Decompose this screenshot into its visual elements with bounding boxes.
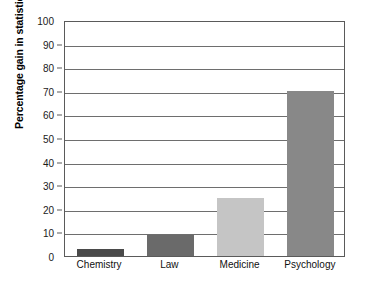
y-axis-tick-mark: [57, 91, 62, 92]
y-axis-tick-mark: [57, 233, 62, 234]
bar: [147, 235, 194, 256]
bar: [287, 91, 334, 256]
y-axis-tick-mark: [57, 162, 62, 163]
bar: [77, 249, 124, 256]
y-axis-tick-label: 40: [43, 157, 54, 168]
y-axis-tick-mark: [57, 186, 62, 187]
y-axis-tick-label: 30: [43, 181, 54, 192]
y-axis-tick-label: 10: [43, 228, 54, 239]
y-axis-tick-label: 90: [43, 39, 54, 50]
y-axis-tick-label: 50: [43, 134, 54, 145]
y-axis-tick-mark: [57, 68, 62, 69]
x-axis-tick-label: Chemistry: [77, 259, 122, 270]
y-axis-tick-label: 80: [43, 63, 54, 74]
y-axis-tick-label: 60: [43, 110, 54, 121]
y-axis-tick-mark: [57, 44, 62, 45]
x-axis-tick-labels: ChemistryLawMedicinePsychology: [64, 259, 345, 279]
bar: [217, 198, 264, 256]
y-axis-tick-mark: [57, 115, 62, 116]
y-axis-tick-mark: [57, 209, 62, 210]
x-axis-tick-label: Psychology: [284, 259, 335, 270]
bar-series: [65, 22, 344, 256]
y-axis-tick-label: 0: [48, 252, 54, 263]
y-axis-tick-label: 70: [43, 86, 54, 97]
y-axis-tick-label: 100: [37, 16, 54, 27]
y-axis-tick-mark: [57, 139, 62, 140]
bar-chart: Percentage gain in statistical reasoning…: [0, 0, 365, 293]
y-axis-tick-label: 20: [43, 204, 54, 215]
plot-area: [64, 21, 345, 257]
x-axis-tick-label: Medicine: [220, 259, 260, 270]
x-axis-tick-label: Law: [160, 259, 178, 270]
y-axis-tick-labels: 0102030405060708090100: [0, 21, 62, 257]
